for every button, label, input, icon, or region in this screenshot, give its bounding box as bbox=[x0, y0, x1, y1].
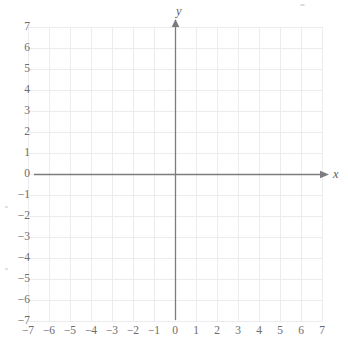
x-tick-label: 5 bbox=[277, 325, 283, 337]
y-tick-label: 7 bbox=[10, 21, 30, 33]
x-tick-label: 4 bbox=[256, 325, 262, 337]
scan-speck bbox=[300, 4, 305, 6]
x-tick-label: −3 bbox=[106, 325, 118, 337]
x-tick-label: 0 bbox=[172, 325, 178, 337]
y-tick-label: −2 bbox=[10, 210, 30, 222]
y-tick-label: 6 bbox=[10, 42, 30, 54]
plot-svg bbox=[0, 0, 348, 346]
x-tick-label: 1 bbox=[193, 325, 199, 337]
y-tick-label: 4 bbox=[10, 84, 30, 96]
y-tick-label: 0 bbox=[10, 168, 30, 180]
y-tick-label: 1 bbox=[10, 147, 30, 159]
y-tick-label: −5 bbox=[10, 273, 30, 285]
x-tick-label: −7 bbox=[22, 325, 34, 337]
x-tick-label: −1 bbox=[148, 325, 160, 337]
y-tick-label: −1 bbox=[10, 189, 30, 201]
x-axis-label: x bbox=[333, 168, 339, 181]
y-axis-arrowhead bbox=[172, 19, 180, 27]
x-tick-label: 3 bbox=[235, 325, 241, 337]
coordinate-plane-figure: y x −7−6−5−4−3−2−101234567 −7−6−5−4−3−2−… bbox=[0, 0, 348, 346]
y-tick-label: −4 bbox=[10, 252, 30, 264]
y-tick-label: 3 bbox=[10, 105, 30, 117]
x-tick-label: 7 bbox=[319, 325, 325, 337]
y-tick-label: −6 bbox=[10, 294, 30, 306]
axis-lines bbox=[34, 19, 329, 320]
x-tick-label: −2 bbox=[127, 325, 139, 337]
scan-speck bbox=[5, 206, 8, 208]
y-tick-label: 2 bbox=[10, 126, 30, 138]
x-tick-label: −6 bbox=[43, 325, 55, 337]
x-tick-label: 2 bbox=[214, 325, 220, 337]
scan-speck bbox=[5, 268, 8, 270]
y-axis-label: y bbox=[176, 5, 182, 18]
x-axis-arrowhead bbox=[320, 171, 329, 179]
x-tick-label: −5 bbox=[64, 325, 76, 337]
x-tick-label: 6 bbox=[298, 325, 304, 337]
x-tick-label: −4 bbox=[85, 325, 97, 337]
y-tick-label: 5 bbox=[10, 63, 30, 75]
y-tick-label: −3 bbox=[10, 231, 30, 243]
